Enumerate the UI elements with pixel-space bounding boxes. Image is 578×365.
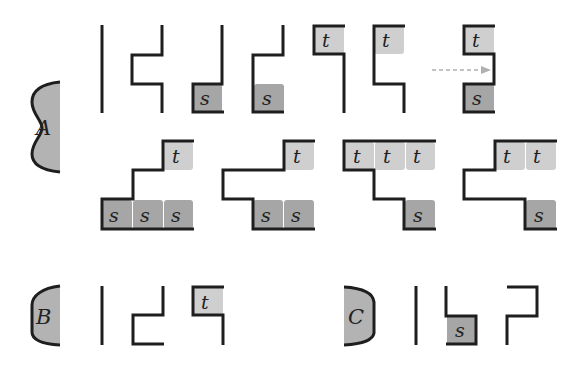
cell-t: t <box>293 145 301 167</box>
cell-s: s <box>455 319 465 341</box>
path-t-open: t <box>374 26 405 113</box>
row-2: t s s s t s s t t t s <box>102 141 557 229</box>
path-l-shape <box>133 286 164 344</box>
cell-t: t <box>413 145 421 167</box>
region-c-label: C <box>348 305 364 329</box>
cell-s: s <box>109 204 119 226</box>
row-1: s s t t t s <box>102 25 495 113</box>
path-c-shape <box>132 25 162 113</box>
cell-t: t <box>322 29 330 51</box>
path-c-tt-s: t t s <box>464 141 557 229</box>
region-a-label: A <box>34 116 51 140</box>
region-c: C <box>344 287 374 345</box>
cell-s: s <box>413 204 423 226</box>
cell-t: t <box>353 145 361 167</box>
cell-s: s <box>291 204 301 226</box>
dashed-arrow <box>432 66 491 74</box>
region-a: A <box>32 82 60 172</box>
path-c-ss-t: t s s <box>223 141 315 229</box>
region-b-label: B <box>35 305 51 329</box>
path-t-top: t <box>314 26 345 113</box>
path-staircase-ttt-s: t t t s <box>344 141 436 229</box>
cell-t: t <box>201 291 209 313</box>
cell-s: s <box>261 204 271 226</box>
path-s-open: s <box>253 25 284 112</box>
path-t-top: t <box>193 287 224 345</box>
cell-s: s <box>534 204 544 226</box>
path-s-bottom: s <box>446 286 477 344</box>
cell-s: s <box>140 204 150 226</box>
cell-t: t <box>172 145 180 167</box>
cell-s: s <box>262 87 272 109</box>
cell-t: t <box>533 145 541 167</box>
cell-s: s <box>171 204 181 226</box>
cell-t: t <box>472 29 480 51</box>
cell-t: t <box>383 145 391 167</box>
cell-s: s <box>472 87 482 109</box>
path-s-bottom: s <box>193 25 224 112</box>
path-staircase-sss-t: t s s s <box>102 141 194 229</box>
path-p-shape <box>507 287 537 345</box>
figure-canvas: A s s t t <box>0 0 578 365</box>
path-t-s-combined: t s <box>464 26 495 112</box>
row-3: B t C s <box>32 286 537 345</box>
cell-t: t <box>503 145 511 167</box>
region-b: B <box>32 286 60 345</box>
cell-s: s <box>200 87 210 109</box>
cell-t: t <box>382 29 390 51</box>
